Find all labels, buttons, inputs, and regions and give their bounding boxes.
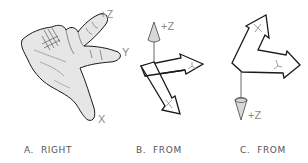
hand-x-label: X (98, 113, 106, 125)
z-cone-down-icon (235, 98, 247, 120)
caption-b-line1: B. FROM (136, 145, 182, 155)
below-z-label: +Z (248, 109, 261, 121)
axes-from-above: +Z (141, 20, 203, 114)
right-hand-illustration: +Z Y X (21, 8, 130, 125)
caption-from-below: C. FROM BELOW (233, 134, 288, 163)
caption-right-hand: A. RIGHT HAND (17, 134, 72, 163)
axes-from-below: +Z (232, 15, 300, 121)
z-cone-up-icon (148, 22, 160, 42)
hand-z-label: +Z (100, 8, 113, 20)
caption-a-line1: A. RIGHT (24, 145, 72, 155)
hand-y-label: Y (122, 46, 130, 58)
caption-c-line1: C. FROM (240, 145, 286, 155)
caption-from-above: B. FROM ABOVE (129, 134, 182, 163)
above-z-label: +Z (161, 20, 174, 32)
